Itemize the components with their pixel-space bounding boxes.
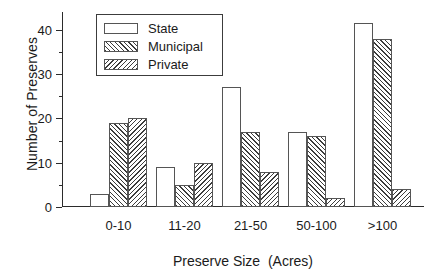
bar-municipal-11-20 xyxy=(175,185,194,207)
bar-private-11-20 xyxy=(194,163,213,207)
legend-swatch-municipal-icon xyxy=(104,41,138,52)
y-tick-label: 20 xyxy=(22,112,52,125)
bar-state-0-10 xyxy=(90,194,109,207)
y-tick-label-wrap: 10 xyxy=(18,157,52,170)
legend-swatch-private-icon xyxy=(104,59,138,70)
legend: State Municipal Private xyxy=(96,14,223,76)
legend-swatch-state-icon xyxy=(104,23,138,34)
bar-private->100 xyxy=(392,189,411,207)
bar-municipal-0-10 xyxy=(109,123,128,207)
bar-municipal-50-100 xyxy=(307,136,326,207)
y-tick-label-wrap: 30 xyxy=(18,68,52,81)
bar-state-21-50 xyxy=(222,87,241,207)
y-tick-major xyxy=(56,207,62,208)
y-tick-label: 40 xyxy=(22,24,52,37)
bar-municipal-21-50 xyxy=(241,132,260,207)
y-tick-label: 0 xyxy=(22,201,52,214)
legend-item-municipal: Municipal xyxy=(104,38,216,55)
y-tick-label: 10 xyxy=(22,157,52,170)
legend-label-municipal: Municipal xyxy=(148,40,203,53)
legend-label-state: State xyxy=(148,22,178,35)
bar-state-11-20 xyxy=(156,167,175,207)
bar-municipal->100 xyxy=(373,39,392,207)
x-tick-label->100: >100 xyxy=(343,219,423,232)
bar-state->100 xyxy=(354,23,373,207)
legend-item-state: State xyxy=(104,20,216,37)
bar-chart: Number of Preserves 010203040 0-1011-202… xyxy=(0,0,440,280)
y-tick-label-wrap: 40 xyxy=(18,24,52,37)
legend-label-private: Private xyxy=(148,58,188,71)
bar-private-0-10 xyxy=(128,118,147,207)
bar-state-50-100 xyxy=(288,132,307,207)
y-tick-label-wrap: 0 xyxy=(18,201,52,214)
bar-private-21-50 xyxy=(260,172,279,207)
y-tick-label: 30 xyxy=(22,68,52,81)
x-axis-title: Preserve Size (Acres) xyxy=(62,253,424,269)
legend-item-private: Private xyxy=(104,56,216,73)
y-tick-label-wrap: 20 xyxy=(18,112,52,125)
bar-private-50-100 xyxy=(326,198,345,207)
